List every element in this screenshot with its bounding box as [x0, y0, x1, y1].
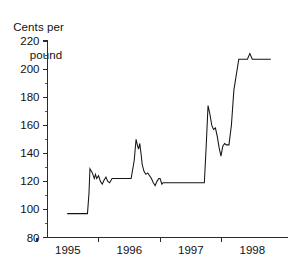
- x-axis-tick-labels: 1995199619971998: [55, 244, 265, 256]
- y-axis-tick-label: 100: [20, 203, 39, 215]
- y-axis-tick-labels: 80100120140160180200220: [20, 35, 39, 244]
- data-series-line: [67, 54, 271, 214]
- y-axis-tick-label: 120: [20, 175, 39, 187]
- chart-container: Cents per pound 80100120140160180200220 …: [0, 0, 302, 276]
- y-axis-tick-label: 200: [20, 63, 39, 75]
- line-chart-plot: 80100120140160180200220 1995199619971998: [0, 0, 302, 276]
- y-axis-tick-label: 220: [20, 35, 39, 47]
- y-axis-tick-label: 140: [20, 147, 39, 159]
- x-axis-tick-label: 1995: [55, 244, 81, 256]
- y-axis-ticks: [43, 41, 48, 238]
- y-axis-tick-label: 180: [20, 91, 39, 103]
- x-axis-tick-label: 1997: [178, 244, 204, 256]
- x-axis-ticks: [37, 238, 222, 243]
- x-axis-tick-label: 1998: [240, 244, 266, 256]
- x-axis-tick-label: 1996: [117, 244, 143, 256]
- y-axis-tick-label: 160: [20, 119, 39, 131]
